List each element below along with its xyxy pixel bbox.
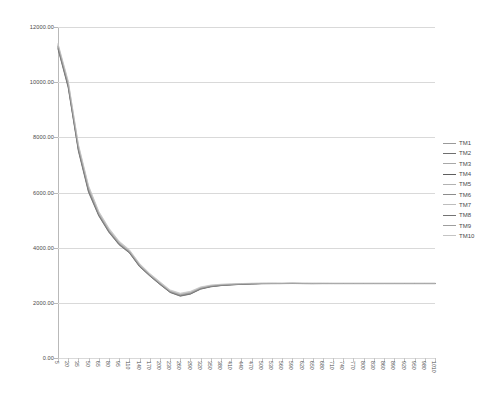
legend-label: TM4	[459, 171, 471, 177]
legend-label: TM6	[459, 192, 471, 198]
series-line-tm9	[58, 46, 435, 295]
gridline-y	[58, 358, 435, 359]
legend-label: TM9	[459, 223, 471, 229]
x-axis-tick-label: 740	[339, 361, 345, 370]
x-axis-tick-label: 170	[146, 361, 152, 370]
x-axis-tick-label: 710	[329, 361, 335, 370]
legend-label: TM3	[459, 161, 471, 167]
legend-item-tm1[interactable]: TM1	[443, 138, 498, 148]
x-axis-tick-label: 1010	[431, 361, 437, 373]
x-axis-tick-label: 590	[288, 361, 294, 370]
legend-swatch-icon	[443, 184, 456, 185]
series-line-tm1	[58, 46, 435, 295]
legend-item-tm8[interactable]: TM8	[443, 210, 498, 220]
plot-series-group	[58, 27, 435, 358]
legend-label: TM2	[459, 150, 471, 156]
x-axis-tick-label: 440	[238, 361, 244, 370]
x-axis-tick-label: 290	[187, 361, 193, 370]
series-line-tm6	[58, 47, 435, 296]
x-axis-tick-label: 680	[319, 361, 325, 370]
legend-swatch-icon	[443, 235, 456, 236]
x-axis-tick-label: 860	[380, 361, 386, 370]
x-axis-tick-label: 350	[207, 361, 213, 370]
x-axis-tick-label: 530	[268, 361, 274, 370]
x-axis-tick-label: 890	[390, 361, 396, 370]
x-axis-tick-label: 35	[74, 361, 80, 367]
legend-swatch-icon	[443, 215, 456, 216]
series-line-tm4	[58, 49, 435, 296]
y-axis-tick-label: 2000.00	[6, 300, 54, 306]
legend-label: TM8	[459, 212, 471, 218]
x-axis-tick-label: 980	[421, 361, 427, 370]
legend-swatch-icon	[443, 143, 456, 144]
x-axis-tick-label: 65	[95, 361, 101, 367]
legend-item-tm5[interactable]: TM5	[443, 179, 498, 189]
x-axis-tick-label: 200	[156, 361, 162, 370]
x-axis-tick-label: 650	[309, 361, 315, 370]
x-axis-tick-label: 770	[350, 361, 356, 370]
chart-legend: TM1TM2TM3TM4TM5TM6TM7TM8TM9TM10	[443, 138, 498, 241]
x-axis-tick-label: 380	[217, 361, 223, 370]
legend-item-tm9[interactable]: TM9	[443, 220, 498, 230]
y-axis-tick-label: 4000.00	[6, 245, 54, 251]
legend-swatch-icon	[443, 225, 456, 226]
x-axis-tick-label: 410	[227, 361, 233, 370]
legend-label: TM10	[459, 233, 474, 239]
legend-swatch-icon	[443, 153, 456, 154]
legend-swatch-icon	[443, 174, 456, 175]
y-axis-tick-label: 10000.00	[6, 79, 54, 85]
x-axis-tick-label: 320	[197, 361, 203, 370]
series-line-tm5	[58, 45, 435, 294]
legend-item-tm4[interactable]: TM4	[443, 169, 498, 179]
x-axis-tick-label: 50	[85, 361, 91, 367]
x-axis-tick-label: 110	[125, 361, 131, 369]
x-axis-tick-label: 560	[278, 361, 284, 370]
legend-swatch-icon	[443, 163, 456, 164]
x-axis-tick-label: 20	[64, 361, 70, 367]
y-axis-tick-label: 8000.00	[6, 134, 54, 140]
series-line-tm8	[58, 48, 435, 296]
y-axis-tick-label: 0.00	[6, 355, 54, 361]
series-line-tm2	[58, 48, 435, 296]
x-axis-tick-label: 950	[411, 361, 417, 370]
x-axis-tick-label: 920	[401, 361, 407, 370]
legend-swatch-icon	[443, 204, 456, 205]
x-axis-tick-label: 470	[248, 361, 254, 370]
x-axis-tick-label: 230	[166, 361, 172, 370]
y-axis-tick-label: 12000.00	[6, 24, 54, 30]
series-line-tm3	[58, 46, 435, 295]
chart-container: 0.002000.004000.006000.008000.0010000.00…	[0, 0, 498, 407]
legend-item-tm3[interactable]: TM3	[443, 159, 498, 169]
x-axis-tick-label: 140	[136, 361, 142, 370]
legend-item-tm2[interactable]: TM2	[443, 148, 498, 158]
series-line-tm10	[58, 44, 435, 294]
legend-label: TM7	[459, 202, 471, 208]
x-axis-tick-label: 80	[105, 361, 111, 367]
x-axis-tick-label: 95	[115, 361, 121, 367]
legend-item-tm6[interactable]: TM6	[443, 189, 498, 199]
x-axis-tick-label: 500	[258, 361, 264, 370]
series-line-tm7	[58, 44, 435, 293]
x-axis-tick-label: 800	[360, 361, 366, 370]
legend-swatch-icon	[443, 194, 456, 195]
x-axis-tick-label: 260	[176, 361, 182, 370]
legend-label: TM5	[459, 181, 471, 187]
y-axis-tick-label: 6000.00	[6, 190, 54, 196]
legend-label: TM1	[459, 140, 471, 146]
x-axis-tick-label: 830	[370, 361, 376, 370]
x-axis-tick-label: 620	[299, 361, 305, 370]
legend-item-tm10[interactable]: TM10	[443, 231, 498, 241]
x-axis-tick-label: 5	[54, 361, 60, 364]
legend-item-tm7[interactable]: TM7	[443, 200, 498, 210]
